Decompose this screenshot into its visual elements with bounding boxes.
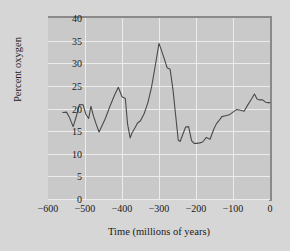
y-tick-label-30: 30 [42,58,82,69]
y-tick-label-35: 35 [42,36,82,47]
line-series-atmospheric-oxygen [63,43,270,143]
oxygen-over-time-chart: 0510152025303540 −600−500−400−300−200−10… [0,0,290,251]
y-tick-label-5: 5 [42,171,82,182]
y-tick-label-10: 10 [42,149,82,160]
y-tick-label-20: 20 [42,104,82,115]
x-tick-label-0: 0 [250,203,290,214]
y-tick-label-25: 25 [42,81,82,92]
x-tick-label--200: −200 [176,203,216,214]
x-tick-label--300: −300 [139,203,179,214]
x-tick-label--100: −100 [213,203,253,214]
y-axis-title: Percent oxygen [12,15,23,125]
x-axis-title: Time (millions of years) [48,226,270,237]
y-tick-label-40: 40 [42,13,82,24]
x-tick-label--500: −500 [65,203,105,214]
x-tick-label--600: −600 [28,203,68,214]
y-tick-label-15: 15 [42,126,82,137]
x-tick-label--400: −400 [102,203,142,214]
